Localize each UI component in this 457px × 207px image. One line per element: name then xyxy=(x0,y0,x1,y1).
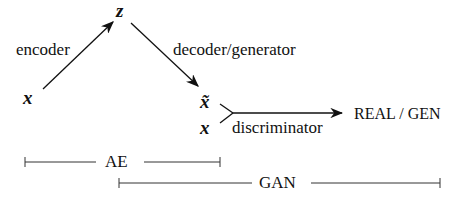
label-encoder: encoder xyxy=(16,41,70,58)
node-z: z xyxy=(116,1,123,20)
diagram-lines xyxy=(0,0,457,207)
node-x-input: x xyxy=(23,88,33,107)
span-gan-label: GAN xyxy=(259,174,296,191)
span-ae-label: AE xyxy=(105,153,128,170)
label-output: REAL / GEN xyxy=(354,106,441,122)
label-decoder: decoder/generator xyxy=(173,41,296,58)
label-discriminator: discriminator xyxy=(232,119,323,136)
node-x-tilde: x̃ xyxy=(200,92,210,111)
node-x-real: x xyxy=(200,118,210,137)
